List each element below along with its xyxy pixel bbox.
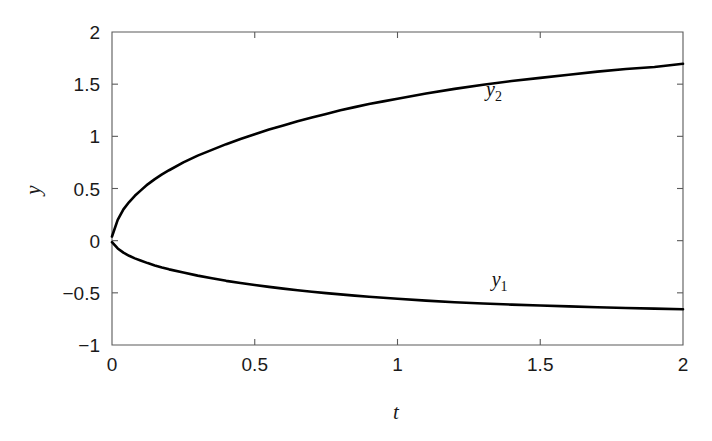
x-tick-label: 0 (107, 354, 118, 375)
y-tick-label: −0.5 (62, 283, 100, 304)
x-tick-label: 1.5 (527, 354, 553, 375)
y-tick-label: 2 (89, 22, 100, 43)
y-tick-label: −1 (78, 335, 100, 356)
x-tick-label: 0.5 (242, 354, 268, 375)
x-tick-label: 2 (678, 354, 689, 375)
y-tick-label: 1.5 (74, 74, 100, 95)
line-chart: 00.511.52 −1−0.500.511.52 y2y1 t y (0, 0, 712, 441)
y-tick-label: 0.5 (74, 179, 100, 200)
y-axis-title: y (21, 185, 45, 197)
y-tick-label: 1 (89, 126, 100, 147)
figure-canvas: 00.511.52 −1−0.500.511.52 y2y1 t y (0, 0, 712, 441)
x-tick-label: 1 (392, 354, 403, 375)
y-tick-label: 0 (89, 231, 100, 252)
